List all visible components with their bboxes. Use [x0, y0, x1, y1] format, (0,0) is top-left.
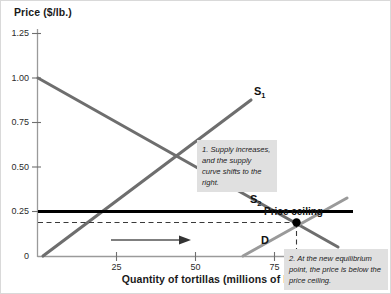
y-axis-title: Price ($/lb.): [14, 6, 72, 18]
supply-curve-s1-label: S1: [254, 85, 266, 100]
y-tick-marks: [32, 34, 41, 212]
x-tick-label-25: 25: [97, 262, 137, 272]
s2-label-subscript: 2: [257, 199, 261, 208]
supply-demand-chart: Price ($/lb.) Quantity of tortillas (mil…: [0, 0, 391, 294]
s1-label-subscript: 1: [261, 91, 265, 100]
price-ceiling-label: Price ceiling: [264, 206, 323, 217]
supply-shift-arrow: [111, 236, 191, 245]
y-tick-label-125: 1.25: [0, 28, 29, 38]
x-tick-label-50: 50: [176, 262, 216, 272]
equilibrium-point-marker: [292, 218, 300, 226]
demand-curve-label: D: [261, 234, 269, 246]
callout-supply-increase: 1. Supply increases, and the supply curv…: [197, 140, 277, 192]
y-tick-label-100: 1.00: [0, 73, 29, 83]
y-tick-label-050: 0.50: [0, 162, 29, 172]
supply-curve-s2-label: S2: [250, 193, 262, 208]
y-tick-label-0: 0: [0, 251, 29, 261]
callout-new-equilibrium: 2. At the new equilibrium point, the pri…: [284, 249, 388, 290]
y-tick-label-025: 0.25: [0, 206, 29, 216]
y-tick-label-075: 0.75: [0, 117, 29, 127]
